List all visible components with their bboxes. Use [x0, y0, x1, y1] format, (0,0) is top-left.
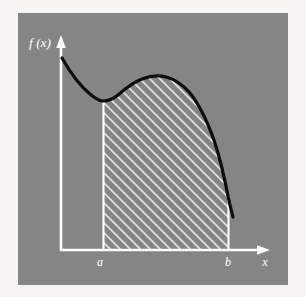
figure-root: f (x) a b x [0, 0, 306, 297]
x-axis-label: x [261, 255, 268, 269]
integral-diagram-svg: f (x) a b x [0, 0, 306, 297]
y-axis-label: f (x) [29, 35, 52, 50]
tick-label-b: b [225, 255, 231, 269]
tick-label-a: a [97, 255, 103, 269]
